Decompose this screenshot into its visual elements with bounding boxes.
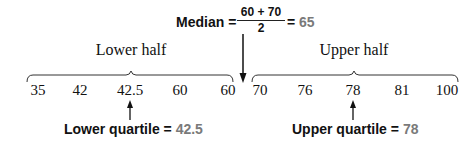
upper-brace-icon — [252, 71, 458, 82]
upper-value-4: 81 — [382, 82, 422, 99]
upper-quartile-value: 78 — [403, 121, 419, 137]
upper-value-5: 100 — [427, 82, 467, 99]
upper-quartile-label: Upper quartile — [292, 121, 387, 137]
lower-quartile-equals: = — [164, 121, 172, 137]
upper-quartile-arrow-up-icon — [350, 100, 356, 120]
upper-value-1: 70 — [240, 82, 280, 99]
lower-quartile-value: 42.5 — [176, 121, 203, 137]
upper-value-3: 78 — [333, 82, 373, 99]
upper-quartile: Upper quartile = 78 — [292, 121, 418, 137]
lower-value-1: 35 — [18, 82, 58, 99]
upper-quartile-equals: = — [391, 121, 399, 137]
lower-value-3: 42.5 — [110, 82, 150, 99]
upper-value-2: 76 — [285, 82, 325, 99]
lower-value-4: 60 — [160, 82, 200, 99]
lower-quartile-label: Lower quartile — [64, 121, 160, 137]
lower-quartile-arrow-up-icon — [127, 100, 133, 120]
lower-quartile: Lower quartile = 42.5 — [64, 121, 203, 137]
median-arrow-down-icon — [240, 34, 247, 83]
lower-brace-icon — [27, 71, 233, 82]
lower-value-2: 42 — [60, 82, 100, 99]
